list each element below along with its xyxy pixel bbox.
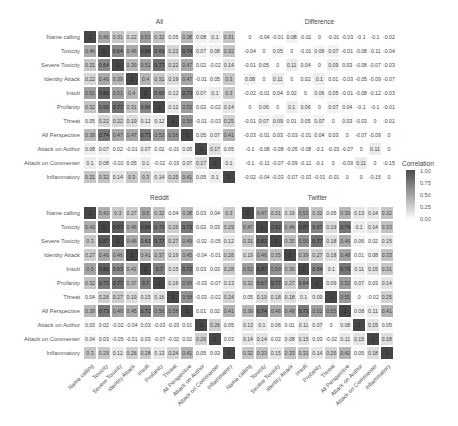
heatmap-cell: 1 [366, 332, 380, 346]
heatmap-cell: 0.05 [194, 346, 208, 360]
heatmap-cell: 0.73 [338, 262, 352, 276]
heatmap-cell: 0.08 [208, 44, 222, 58]
heatmap-cell: 0.73 [97, 276, 111, 290]
heatmap-cell: 1 [111, 58, 125, 72]
heatmap-cell: 0.86 [139, 44, 153, 58]
heatmap-cell: 0.05 [194, 128, 208, 142]
heatmap-cell: 0.01 [194, 304, 208, 318]
heatmap-cell: 0.08 [283, 332, 297, 346]
heatmap-cell: 0.47 [180, 58, 194, 72]
heatmap-cell: 0.51 [139, 58, 153, 72]
heatmap-cell: -0.07 [152, 332, 166, 346]
heatmap-cell: 0 [352, 290, 366, 304]
heatmap-cell: -0.03 [271, 170, 285, 184]
heatmap-cell: 0 [368, 114, 382, 128]
heatmap-cell: 0.25 [222, 114, 236, 128]
heatmap-cell: 0.47 [180, 72, 194, 86]
heatmap-cell: 0.33 [255, 346, 269, 360]
heatmap-cell: 0.67 [255, 276, 269, 290]
heatmap-cell: 0.05 [166, 30, 180, 44]
heatmap-cell: 0.06 [312, 86, 326, 100]
heatmap-cell: 1 [166, 290, 180, 304]
heatmap-cell: -0.01 [312, 170, 326, 184]
heatmap-cell: 0 [354, 142, 368, 156]
heatmap-cell: 0.33 [283, 346, 297, 360]
heatmap-cell: -0.1 [312, 142, 326, 156]
heatmap-cell: -0.07 [382, 72, 396, 86]
heatmap-cell: 0.56 [166, 128, 180, 142]
heatmap-cell: 0.3 [222, 86, 236, 100]
heatmap-cell: 0.58 [166, 304, 180, 318]
heatmap-cell: 0.41 [180, 170, 194, 184]
heatmap-cell: 0.12 [166, 100, 180, 114]
heatmap-cell: 0 [382, 142, 396, 156]
heatmap-cell: 1 [152, 100, 166, 114]
heatmap-cell: 0.07 [208, 128, 222, 142]
heatmap-cell: 0.52 [338, 276, 352, 290]
heatmap-cell: 0.3 [111, 206, 125, 220]
heatmap-cell: 0.08 [366, 248, 380, 262]
heatmap-cell: 0.04 [312, 128, 326, 142]
heatmap-cell: 0.82 [269, 220, 283, 234]
heatmap-cell: 0.05 [180, 142, 194, 156]
heatmap-cell: 0.32 [152, 206, 166, 220]
heatmap-cell: 0.18 [283, 290, 297, 304]
heatmap-cell: 0 [340, 128, 354, 142]
heatmap-cell: -0.01 [125, 332, 139, 346]
heatmap-cell: 0.1 [312, 72, 326, 86]
heatmap-cell: 0.15 [297, 332, 311, 346]
heatmap-cell: 0 [285, 44, 299, 58]
heatmap-cell: 0.74 [97, 128, 111, 142]
heatmap-cell: 0.25 [324, 346, 338, 360]
heatmap-cell: 0.86 [139, 220, 153, 234]
heatmap-cell: 0.87 [97, 234, 111, 248]
legend-tick: 0.00 [420, 216, 431, 222]
heatmap-cell: 0.32 [97, 170, 111, 184]
heatmap-cell: 0.64 [297, 276, 311, 290]
heatmap-cell: 0.04 [299, 58, 313, 72]
heatmap-cell: 0.19 [166, 248, 180, 262]
heatmap-cell: 0 [271, 100, 285, 114]
heatmap-cell: 0.24 [222, 290, 236, 304]
heatmap-cell: 1 [283, 248, 297, 262]
heatmap-cell: 0.56 [152, 304, 166, 318]
heatmap-cell: 0.77 [111, 100, 125, 114]
heatmap-cell: 0.5 [83, 262, 97, 276]
panel-title: Twitter [241, 194, 394, 201]
heatmap-cell: 0.47 [111, 128, 125, 142]
heatmap-cell: 0.46 [125, 220, 139, 234]
heatmap-cell: 0.33 [380, 248, 394, 262]
heatmap-cell: 0.29 [222, 220, 236, 234]
heatmap-cell: -0.15 [368, 170, 382, 184]
heatmap-cell: 0.26 [222, 248, 236, 262]
heatmap-cell: 0.41 [222, 128, 236, 142]
heatmap-cell: 0.03 [366, 276, 380, 290]
heatmap-cell: -0.03 [382, 58, 396, 72]
heatmap-cell: 1 [97, 220, 111, 234]
heatmap-cell: 0.27 [166, 234, 180, 248]
heatmap-cell: 0 [382, 128, 396, 142]
heatmap-cell: 0.13 [222, 276, 236, 290]
heatmap-cell: 0.32 [241, 276, 255, 290]
heatmap-cell: 0 [368, 156, 382, 170]
heatmap-cell: -0.03 [326, 142, 340, 156]
heatmap-cell: -0.03 [382, 86, 396, 100]
heatmap-cell: 0.05 [194, 170, 208, 184]
heatmap-cell: 0.73 [180, 220, 194, 234]
heatmap-cell: 0.07 [257, 114, 271, 128]
heatmap-cell: 0.07 [312, 114, 326, 128]
heatmap-cell: 0.32 [241, 346, 255, 360]
heatmap-cell: 0.31 [241, 234, 255, 248]
heatmap-cell: 0.27 [111, 290, 125, 304]
heatmap-cell: 0.27 [83, 248, 97, 262]
heatmap-cell: 0.66 [139, 100, 153, 114]
heatmap-cell: 0 [243, 100, 257, 114]
heatmap-cell: 0.69 [97, 100, 111, 114]
heatmap-cell: 0.04 [340, 100, 354, 114]
heatmap-cell: 0.38 [83, 304, 97, 318]
heatmap-cell: -0.02 [366, 290, 380, 304]
heatmap-cell: 0.03 [340, 114, 354, 128]
heatmap-cell: 0.73 [297, 304, 311, 318]
heatmap-cell: 0.31 [380, 262, 394, 276]
heatmap-cell: 0.73 [139, 128, 153, 142]
